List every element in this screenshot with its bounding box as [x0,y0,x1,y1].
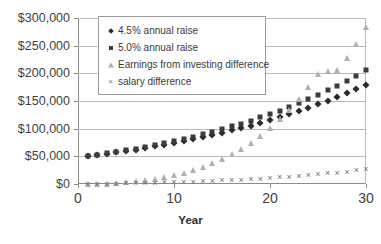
data-point [104,151,109,156]
legend-label-1: 5.0% annual raise [118,42,198,53]
triangle-marker-icon [105,59,116,70]
data-point: × [306,171,311,180]
legend-item-2: Earnings from investing difference [105,56,265,73]
data-point [353,86,360,93]
data-point [344,55,350,61]
data-point [257,119,264,126]
data-point [85,181,91,187]
data-point [113,149,120,156]
x-axis-tick-label: 10 [166,190,182,206]
data-point [124,148,129,153]
legend-label-0: 4.5% annual raise [118,25,198,36]
data-point [258,115,263,120]
data-point: × [258,174,263,183]
data-point [287,104,292,109]
data-point [305,104,312,111]
data-point [305,84,311,90]
data-point [94,152,101,159]
chart-container: $0$50,000$100,000$150,000$200,000$250,00… [0,0,381,244]
data-point: × [277,173,282,182]
data-point [151,143,158,150]
data-point [190,136,197,143]
cross-marker-icon: × [105,76,116,87]
data-point [268,112,273,117]
data-point [334,94,341,101]
data-point [161,141,168,148]
x-axis-tick [174,184,175,188]
data-point: × [85,180,90,189]
data-point [218,129,225,136]
data-point [362,81,369,88]
x-axis-tick-labels: 0102030 [78,190,366,208]
diamond-marker-icon [105,25,116,36]
data-point [363,24,369,30]
data-point [162,141,167,146]
x-axis-tick [78,184,79,188]
chart-legend: 4.5% annual raise 5.0% annual raise Earn… [98,16,266,95]
gridline [78,129,366,130]
legend-label-2: Earnings from investing difference [118,59,269,70]
y-axis-tick [74,156,78,157]
data-point [142,144,149,151]
data-point: × [267,173,272,182]
y-axis-tick-label: $150,000 [18,95,70,108]
y-axis-tick-label: $250,000 [18,39,70,52]
data-point [209,131,216,138]
gridline [78,101,366,102]
data-point [286,107,292,113]
data-point [248,140,254,146]
x-axis-tick [366,184,367,188]
data-point [191,134,196,139]
data-point [316,92,321,97]
data-point [161,174,167,180]
data-point [143,144,148,149]
x-axis-tick-label: 20 [262,190,278,206]
y-axis-tick-labels: $0$50,000$100,000$150,000$200,000$250,00… [0,18,74,184]
y-axis-tick-label: $200,000 [18,67,70,80]
data-point: × [335,168,340,177]
data-point: × [296,171,301,180]
data-point [266,117,273,124]
data-point [133,146,138,151]
data-point [238,146,244,152]
x-axis-tick-label: 30 [358,190,374,206]
data-point: × [325,169,330,178]
data-point [210,129,215,134]
data-point [325,88,330,93]
legend-item-1: 5.0% annual raise [105,39,265,56]
data-point [172,139,177,144]
data-point [248,118,253,123]
data-point: × [344,167,349,176]
data-point: × [354,166,359,175]
data-point [315,71,321,77]
data-point [181,170,187,176]
data-point [200,164,206,170]
data-point [277,108,282,113]
data-point [239,121,244,126]
x-axis-tick [270,184,271,188]
legend-label-3: salary difference [118,76,191,87]
y-axis-tick [74,46,78,47]
y-axis-tick [74,129,78,130]
data-point: × [181,177,186,186]
y-axis-tick-label: $300,000 [18,12,70,25]
data-point [277,116,283,122]
data-point [180,137,187,144]
y-axis-tick [74,73,78,74]
legend-item-3: × salary difference [105,73,265,90]
data-point: × [210,176,215,185]
gridline [78,156,366,157]
data-point [170,139,177,146]
legend-item-0: 4.5% annual raise [105,22,265,39]
data-point [335,83,340,88]
data-point [171,172,177,178]
data-point [181,136,186,141]
y-axis-tick [74,18,78,19]
data-point: × [287,172,292,181]
data-point: × [315,170,320,179]
x-axis-tick-label: 0 [74,190,82,206]
y-axis-tick-label: $0 [56,178,70,191]
data-point [200,132,205,137]
y-axis-tick-label: $50,000 [25,150,70,163]
data-point [295,108,302,115]
